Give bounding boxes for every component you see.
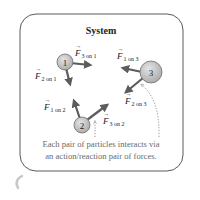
svg-text:F3 on 2: F3 on 2 [102,116,125,127]
arrow-f-2-on-1 [66,68,70,84]
label-f-1-on-2: F1 on 2 → [43,97,66,113]
svg-text:F1 on 2: F1 on 2 [43,102,66,113]
system-diagram: System 1 3 2 F3 on 1 → F2 on 1 → F1 on 3… [0,0,200,200]
particle-3-label: 3 [149,68,154,78]
vector-arrow-icon: → [118,46,124,52]
page-curl-mark [17,176,22,188]
label-f-3-on-1: F3 on 1 → [74,43,97,59]
pointer-pair-1-3-curve [142,85,159,137]
arrow-f-1-on-2 [74,101,80,119]
svg-text:F1 on 3: F1 on 3 [116,51,139,62]
label-f-3-on-2: F3 on 2 → [102,111,125,127]
svg-text:F2 on 3: F2 on 3 [124,96,147,107]
particle-2-label: 2 [80,121,85,131]
particle-3: 3 [140,61,162,83]
particle-1: 1 [57,54,73,70]
particle-2: 2 [74,117,90,133]
vector-arrow-icon: → [104,111,110,117]
caption-line-2: an action/reaction pair of forces. [45,151,156,161]
arrow-f-1-on-3 [123,68,142,72]
label-f-1-on-3: F1 on 3 → [116,46,139,62]
vector-arrow-icon: → [76,43,82,49]
vector-arrow-icon: → [36,66,42,72]
svg-text:F3 on 1: F3 on 1 [74,48,97,59]
particle-1-label: 1 [63,58,68,68]
vector-arrow-icon: → [45,97,51,103]
label-f-2-on-1: F2 on 1 → [34,66,57,82]
vector-arrow-icon: → [126,91,132,97]
diagram-title: System [86,25,117,36]
svg-text:F2 on 1: F2 on 1 [34,71,57,82]
arrow-f-2-on-3 [126,78,143,92]
caption-line-1: Each pair of particles interacts via [42,139,159,149]
label-f-2-on-3: F2 on 3 → [124,91,147,107]
